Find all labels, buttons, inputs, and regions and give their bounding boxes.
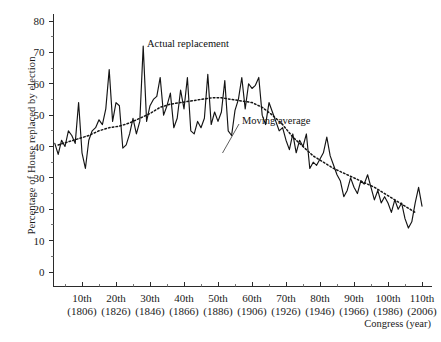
x-tick-label: 40th <box>174 292 194 304</box>
x-tick-sublabel: (1806) <box>67 305 97 318</box>
x-tick-sublabel: (1826) <box>101 305 131 318</box>
y-axis-ticks <box>49 21 54 272</box>
x-tick-sublabel: (2006) <box>407 305 437 318</box>
y-tick-label: 80 <box>34 15 46 27</box>
chart-plot: 01020304050607080 10th(1806)20th(1826)30… <box>0 0 441 342</box>
x-tick-sublabel: (1846) <box>135 305 165 318</box>
x-tick-sublabel: (1886) <box>203 305 233 318</box>
x-axis-title: Congress (year) <box>364 318 431 329</box>
x-tick-sublabel: (1906) <box>237 305 267 318</box>
x-tick-sublabel: (1966) <box>339 305 369 318</box>
x-tick-label: 50th <box>208 292 228 304</box>
figure-container: 01020304050607080 10th(1806)20th(1826)30… <box>0 0 441 342</box>
x-tick-label: 80th <box>310 292 330 304</box>
x-tick-sublabel: (1866) <box>169 305 199 318</box>
x-tick-label: 10th <box>72 292 92 304</box>
x-tick-label: 30th <box>140 292 160 304</box>
x-tick-label: 60th <box>242 292 262 304</box>
x-axis-tick-labels: 10th(1806)20th(1826)30th(1846)40th(1866)… <box>67 292 437 318</box>
annotation-actual-replacement: Actual replacement <box>147 38 229 49</box>
x-tick-label: 110th <box>410 292 435 304</box>
x-axis-ticks <box>65 282 422 287</box>
x-tick-label: 20th <box>106 292 126 304</box>
x-tick-sublabel: (1926) <box>271 305 301 318</box>
x-tick-sublabel: (1986) <box>373 305 403 318</box>
series-actual-replacement <box>55 46 422 228</box>
y-axis-title: Percentage of House replaced by election <box>26 46 37 246</box>
x-tick-label: 70th <box>276 292 296 304</box>
x-tick-label: 90th <box>344 292 364 304</box>
x-tick-label: 100th <box>375 292 401 304</box>
y-tick-label: 0 <box>39 266 45 278</box>
x-tick-sublabel: (1946) <box>305 305 335 318</box>
annotation-moving-average: Moving average <box>242 115 311 126</box>
moving-average-leader-line <box>223 124 240 153</box>
caption-sliver <box>24 335 424 342</box>
